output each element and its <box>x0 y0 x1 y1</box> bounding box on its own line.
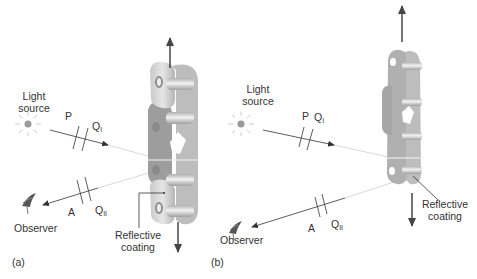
wave-plate-sub: II <box>339 224 343 231</box>
light-source-icon-b <box>228 112 254 136</box>
wave-plate-qii-label-a: QII <box>95 204 107 218</box>
coating-leader-b <box>413 176 438 200</box>
polarizer-label-a: P <box>65 110 72 122</box>
wave-plate-q: Q <box>331 218 339 230</box>
coating-label-b: Reflective coating <box>420 198 470 222</box>
wave-plate-sub: II <box>103 210 107 217</box>
wave-plate-qii <box>85 177 91 201</box>
analyzer-label-a: A <box>68 206 75 218</box>
wave-plate-qi-label-a: QI <box>92 120 102 134</box>
panel-caption-b: (b) <box>211 256 224 268</box>
coating-label-line2: coating <box>420 210 470 222</box>
light-source-label-a: Light source <box>12 90 56 114</box>
coating-label-line1: Reflective <box>113 229 163 241</box>
chain-link-b <box>382 50 424 185</box>
wave-plate-sub: I <box>322 117 324 124</box>
light-source-label-line2: source <box>236 95 280 107</box>
light-source-icon <box>15 112 41 136</box>
panel-a <box>15 38 200 252</box>
polarizer-label-b: P <box>302 110 309 122</box>
wave-plate-qii-label-b: QII <box>331 218 343 232</box>
light-source-label-line1: Light <box>236 83 280 95</box>
reflected-ray-faint <box>98 172 152 188</box>
coating-label-line1: Reflective <box>420 198 470 210</box>
wave-plate-q: Q <box>92 120 100 132</box>
analyzer-label-b: A <box>308 222 315 234</box>
incident-ray-b <box>263 130 334 145</box>
analyzer-a <box>77 180 83 204</box>
observer-label-b: Observer <box>220 234 263 246</box>
panel-caption-a: (a) <box>12 256 25 268</box>
panel-b <box>228 6 438 240</box>
incident-ray-faint <box>108 145 155 158</box>
wave-plate-q: Q <box>314 111 322 123</box>
observer-eye-icon <box>22 193 36 214</box>
light-source-label-line2: source <box>12 102 56 114</box>
wave-plate-q: Q <box>95 204 103 216</box>
wave-plate-sub: I <box>100 126 102 133</box>
light-source-label-b: Light source <box>236 83 280 107</box>
wave-plate-qi-label-b: QI <box>314 111 324 125</box>
observer-label-a: Observer <box>14 222 57 234</box>
polarizer-p-b <box>299 127 304 147</box>
incident-ray-faint-b <box>334 145 393 158</box>
photoelastic-chain-diagram: Light source P QI A QII Observer Reflect… <box>0 0 477 279</box>
coating-label-a: Reflective coating <box>113 229 163 253</box>
reflected-ray-faint-b <box>345 182 394 198</box>
coating-label-line2: coating <box>113 241 163 253</box>
chain-link-a <box>147 62 200 225</box>
light-source-label-line1: Light <box>12 90 56 102</box>
